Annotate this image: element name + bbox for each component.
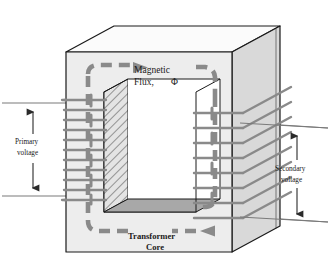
transformer-figure-canvas: Magnetic Flux, Φ Primary voltage Seconda… bbox=[0, 0, 330, 280]
flux-symbol-phi: Φ bbox=[171, 77, 178, 87]
transformer-diagram: Magnetic Flux, Φ Primary voltage Seconda… bbox=[0, 0, 330, 280]
core-window-inner bbox=[104, 79, 220, 212]
secondary-voltage-label-line2: voltage bbox=[281, 176, 302, 184]
primary-voltage-label: Primary voltage bbox=[15, 138, 39, 157]
secondary-voltage-label-line1: Secondary bbox=[275, 165, 306, 173]
magnetic-flux-label-line1: Magnetic bbox=[134, 65, 170, 75]
transformer-core-label-line1: Transformer bbox=[128, 231, 175, 241]
magnetic-flux-label-line2: Flux, bbox=[134, 77, 154, 87]
primary-voltage-label-line1: Primary bbox=[15, 138, 39, 146]
transformer-core-label-line2: Core bbox=[146, 242, 164, 252]
primary-voltage-label-line2: voltage bbox=[17, 149, 38, 157]
